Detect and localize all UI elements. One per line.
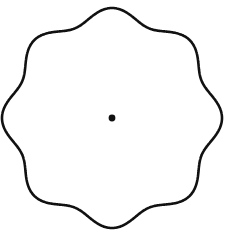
figure-canvas [0, 0, 229, 237]
rosette-figure [0, 0, 229, 237]
center-point-marker [109, 115, 116, 122]
